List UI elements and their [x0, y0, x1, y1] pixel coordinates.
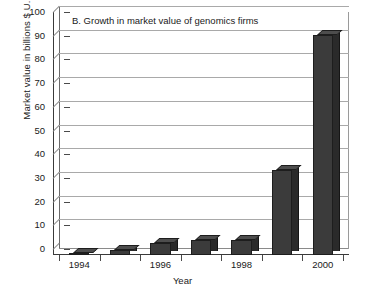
y-tick-label: 30 [17, 173, 45, 183]
chart-root: Market value in billions $ U.S. 01020304… [0, 0, 365, 293]
y-tick-label: 60 [17, 102, 45, 112]
bar [150, 243, 170, 255]
x-tick-label: 1998 [219, 259, 265, 270]
bar [231, 240, 251, 255]
bar-side-face [292, 166, 299, 251]
y-tick-label: 40 [17, 149, 45, 159]
chart-title: B. Growth in market value of genomics fi… [72, 15, 258, 26]
bar-side-face [333, 31, 340, 251]
bar-front-face [313, 35, 333, 255]
bar [110, 250, 130, 255]
bar [272, 170, 292, 255]
y-tick-label: 90 [17, 31, 45, 41]
x-tick-label: 1994 [56, 259, 102, 270]
x-axis-title: Year [0, 275, 365, 286]
y-tick-label: 10 [17, 221, 45, 231]
y-tick-label: 70 [17, 78, 45, 88]
gridline [59, 6, 349, 7]
x-tick-label: 2000 [300, 259, 346, 270]
y-axis-tick-labels: 0102030405060708090100 [17, 0, 45, 293]
y-tick-label: 100 [17, 7, 45, 17]
bar-front-face [191, 240, 211, 255]
bar-front-face [231, 240, 251, 255]
y-tick-label: 80 [17, 55, 45, 65]
y-tick-label: 0 [17, 244, 45, 254]
bar [313, 35, 333, 255]
bar-front-face [150, 243, 170, 255]
bar-front-face [272, 170, 292, 255]
bar-top-face [73, 248, 99, 253]
y-tick-label: 50 [17, 126, 45, 136]
plot-area [53, 12, 349, 255]
bar-top-face [317, 30, 343, 35]
bar-series [53, 12, 349, 255]
bar [191, 240, 211, 255]
bar-front-face [110, 250, 130, 255]
y-tick-label: 20 [17, 197, 45, 207]
bar [69, 253, 89, 255]
x-tick-label: 1996 [137, 259, 183, 270]
